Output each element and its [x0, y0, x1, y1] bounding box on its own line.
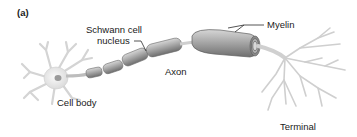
cell-body-label: Cell body: [57, 97, 97, 108]
axon-label: Axon: [165, 66, 187, 77]
panel-label: (a): [17, 7, 29, 18]
neuron-diagram: (a): [0, 0, 357, 137]
terminal-label: Terminal: [280, 121, 316, 132]
schwann-label-line1: Schwann cell: [86, 24, 142, 35]
cell-body-graphic: [22, 42, 92, 104]
terminal-graphic: [262, 28, 345, 110]
schwann-label-line2: nucleus: [97, 35, 130, 46]
myelin-label: Myelin: [267, 19, 294, 30]
